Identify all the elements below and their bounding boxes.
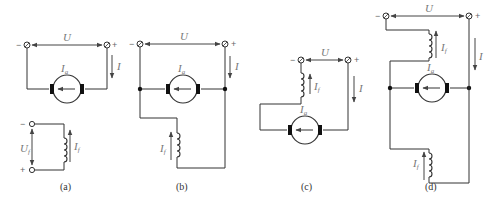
terminal-positive: [345, 57, 351, 63]
field-terminal-positive: [29, 167, 34, 172]
junction-dot: [388, 86, 392, 90]
wire: [386, 19, 429, 34]
panel-c-series: − + U Ia If I (c): [260, 46, 364, 193]
wire: [35, 124, 64, 138]
armature-current-label: Ia: [177, 62, 186, 76]
current-label: I: [116, 60, 122, 72]
terminal-negative: [298, 57, 304, 63]
terminal-positive: [222, 41, 228, 47]
shunt-field-current-label: If: [412, 157, 420, 171]
junction-dot: [223, 87, 227, 91]
series-field-current-label: If: [440, 41, 448, 55]
terminal-negative: [383, 13, 389, 19]
voltage-label: U: [321, 46, 330, 58]
field-voltage-label: Uf: [20, 142, 31, 156]
armature-motor: [166, 75, 200, 103]
caption-b: (b): [176, 181, 188, 193]
panel-d-compound: − + U If Ia If I (d): [375, 2, 484, 193]
caption-d: (d): [425, 181, 437, 193]
field-current-label: If: [73, 140, 81, 154]
field-terminal-negative: [29, 121, 34, 126]
wire: [390, 58, 429, 153]
armature-motor: [415, 74, 449, 102]
minus-sign: −: [375, 11, 380, 21]
terminal-negative: [24, 42, 30, 48]
voltage-label: U: [425, 2, 434, 14]
dc-motor-diagrams: − + U Ia I − + Uf If (a) − + U: [0, 0, 494, 203]
field-coil: [64, 138, 67, 162]
minus-sign: −: [290, 55, 295, 65]
current-label: I: [478, 50, 484, 62]
caption-a: (a): [60, 181, 71, 193]
plus-sign: +: [20, 165, 25, 175]
shunt-field-coil: [429, 153, 432, 177]
voltage-label: U: [63, 31, 72, 43]
armature-current-label: Ia: [60, 62, 69, 76]
wire: [85, 48, 107, 89]
wire: [27, 48, 49, 89]
plus-sign: +: [112, 40, 117, 50]
plus-sign: +: [354, 55, 359, 65]
minus-sign: −: [129, 39, 134, 49]
armature-current-label: Ia: [299, 103, 308, 117]
minus-sign: −: [16, 40, 21, 50]
armature-motor: [50, 75, 84, 103]
series-field-coil: [429, 34, 432, 58]
field-current-label: If: [313, 80, 321, 94]
current-label: I: [234, 60, 240, 72]
field-coil: [301, 73, 304, 97]
panel-b-shunt: − + U Ia If I (b): [129, 30, 240, 193]
terminal-negative: [137, 41, 143, 47]
plus-sign: +: [231, 39, 236, 49]
field-current-label: If: [159, 142, 167, 156]
terminal-positive: [104, 42, 110, 48]
current-label: I: [358, 82, 364, 94]
voltage-label: U: [180, 30, 189, 42]
terminal-positive: [466, 13, 472, 19]
wire: [35, 162, 64, 170]
armature-current-label: Ia: [426, 61, 435, 75]
minus-sign: −: [20, 119, 25, 129]
wire: [323, 63, 348, 130]
caption-c: (c): [301, 181, 312, 193]
armature-motor: [288, 116, 322, 144]
field-coil: [177, 133, 180, 157]
plus-sign: +: [475, 11, 480, 21]
panel-a-separately-excited: − + U Ia I − + Uf If (a): [16, 31, 122, 193]
junction-dot: [138, 87, 142, 91]
wire: [177, 47, 225, 168]
